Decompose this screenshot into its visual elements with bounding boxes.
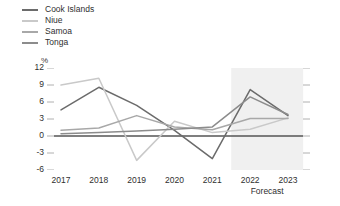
plot-area	[47, 68, 310, 170]
forecast-label: Forecast	[232, 186, 302, 196]
y-tick-label: 0	[22, 130, 44, 140]
legend-label-samoa: Samoa	[45, 26, 72, 37]
y-tick-label: -6	[22, 164, 44, 174]
legend-swatch-tonga	[22, 42, 38, 44]
x-tick-label: 2018	[81, 175, 117, 185]
x-tick-label: 2022	[232, 175, 268, 185]
line-chart: Cook Islands Niue Samoa Tonga % 129630-3…	[0, 0, 340, 206]
legend-swatch-samoa	[22, 31, 38, 33]
legend-item-tonga[interactable]: Tonga	[22, 37, 94, 48]
x-tick-label: 2023	[270, 175, 306, 185]
plot-svg	[47, 68, 310, 170]
legend-item-niue[interactable]: Niue	[22, 15, 94, 26]
chart-legend: Cook Islands Niue Samoa Tonga	[22, 4, 94, 48]
y-tick-label: 3	[22, 113, 44, 123]
legend-swatch-cook-islands	[22, 9, 38, 11]
legend-swatch-niue	[22, 20, 38, 22]
legend-item-samoa[interactable]: Samoa	[22, 26, 94, 37]
y-tick-label: -3	[22, 147, 44, 157]
y-tick-label: 9	[22, 79, 44, 89]
y-tick-label: 12	[22, 62, 44, 72]
legend-label-niue: Niue	[45, 15, 62, 26]
x-tick-label: 2017	[43, 175, 79, 185]
legend-label-tonga: Tonga	[45, 37, 68, 48]
y-tick-label: 6	[22, 96, 44, 106]
x-tick-label: 2019	[119, 175, 155, 185]
legend-item-cook-islands[interactable]: Cook Islands	[22, 4, 94, 15]
x-tick-label: 2020	[157, 175, 193, 185]
legend-label-cook-islands: Cook Islands	[45, 4, 94, 15]
x-tick-label: 2021	[194, 175, 230, 185]
